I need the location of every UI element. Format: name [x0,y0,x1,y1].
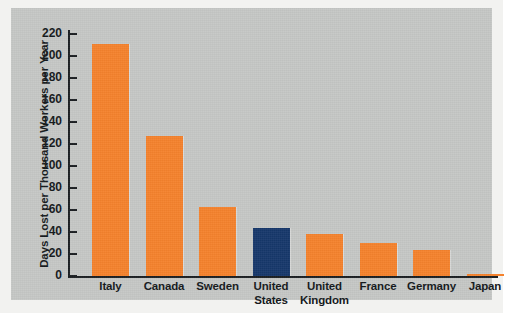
bar-sweden [199,207,236,276]
y-axis-tick-label: 0 [55,267,62,283]
y-axis-tick-label: 200 [42,47,62,63]
y-axis-tick-label: 60 [49,201,62,217]
bar-italy [92,44,129,276]
y-axis-tick-label: 160 [42,91,62,107]
x-axis-label-japan: Japan [454,280,508,294]
y-axis-tick-label: 20 [49,245,62,261]
bar-united-states [253,228,290,276]
y-axis-tick-label: 40 [49,223,62,239]
plot-area: 020406080100120140160180200220 [68,34,498,276]
bar-france [360,243,397,276]
y-axis-tick-label: 140 [42,113,62,129]
bar-japan [467,274,504,276]
y-axis-tick-label: 180 [42,69,62,85]
y-axis-tick-label: 100 [42,157,62,173]
x-axis-category-labels: ItalyCanadaSwedenUnitedStatesUnitedKingd… [70,280,498,313]
chart-panel: Days Lost per Thousand Workers per Year … [11,8,492,300]
x-axis-line [68,276,498,278]
y-axis-tick-label: 220 [42,25,62,41]
bar-canada [146,136,183,276]
bar-united-kingdom [306,234,343,276]
y-axis-tick-label: 120 [42,135,62,151]
y-axis-tick-label: 80 [49,179,62,195]
bar-series [70,34,498,276]
bar-germany [413,250,450,276]
